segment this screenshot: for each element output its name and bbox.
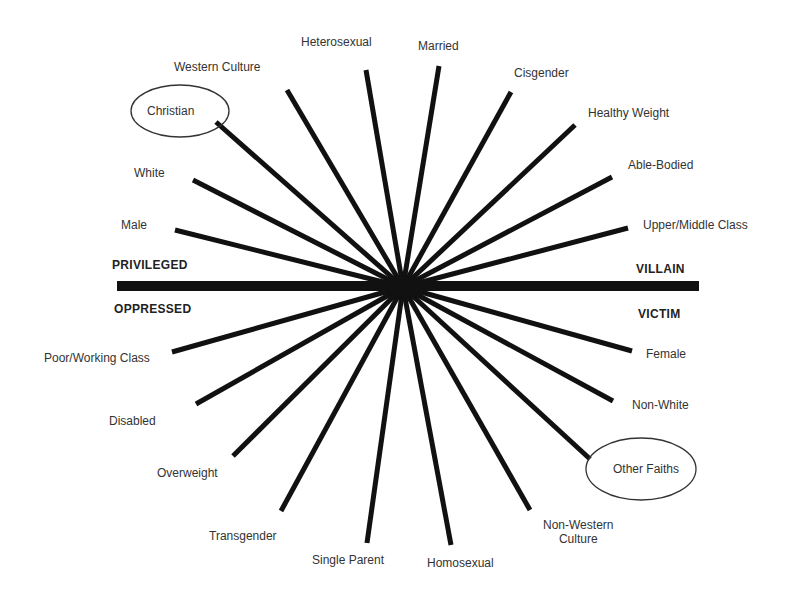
label-privileged: PRIVILEGED (112, 258, 188, 272)
label-poor-working-class: Poor/Working Class (44, 351, 150, 365)
spoke-single-parent (367, 287, 403, 543)
label-christian: Christian (147, 104, 194, 118)
label-disabled: Disabled (109, 414, 156, 428)
label-single-parent: Single Parent (312, 553, 384, 567)
label-heterosexual: Heterosexual (301, 35, 372, 49)
label-victim: VICTIM (638, 307, 680, 321)
label-villain: VILLAIN (636, 262, 685, 276)
label-healthy-weight: Healthy Weight (588, 106, 669, 120)
privilege-wheel-diagram (0, 0, 806, 596)
center-hub (392, 276, 414, 298)
label-female: Female (646, 347, 686, 361)
label-western-culture: Western Culture (174, 60, 260, 74)
label-white: White (134, 166, 165, 180)
label-oppressed: OPPRESSED (114, 302, 191, 316)
label-other-faiths: Other Faiths (613, 462, 679, 476)
label-non-western-line2: Culture (543, 532, 613, 546)
label-able-bodied: Able-Bodied (628, 158, 693, 172)
label-married: Married (418, 39, 459, 53)
label-cisgender: Cisgender (514, 66, 569, 80)
label-male: Male (121, 218, 147, 232)
label-non-western-line1: Non-Western (543, 518, 613, 532)
label-overweight: Overweight (157, 466, 218, 480)
label-transgender: Transgender (209, 529, 277, 543)
label-upper-middle-class: Upper/Middle Class (643, 218, 748, 232)
label-non-white: Non-White (632, 398, 689, 412)
spoke-lines (172, 66, 632, 545)
label-homosexual: Homosexual (427, 556, 494, 570)
label-non-western-culture: Non-Western Culture (543, 518, 613, 546)
